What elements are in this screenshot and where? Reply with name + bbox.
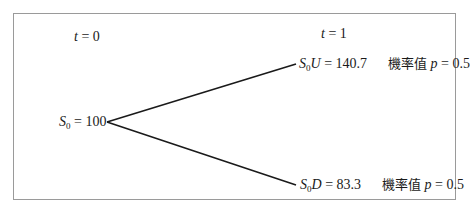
equals-sign: = bbox=[325, 26, 340, 41]
equals-sign: = bbox=[78, 29, 93, 44]
price-variable: S bbox=[59, 114, 66, 129]
equals-sign: = bbox=[71, 114, 86, 129]
probability-label: 機率值 bbox=[388, 56, 427, 71]
equals-sign: = bbox=[438, 56, 453, 71]
down-node-label: S0D = 83.3 機率值 p = 0.5 bbox=[300, 177, 464, 193]
down-probability-value: 0.5 bbox=[446, 177, 464, 192]
equals-sign: = bbox=[321, 56, 336, 71]
root-price-value: 100 bbox=[85, 114, 106, 129]
root-node-label: S0 = 100 bbox=[59, 114, 106, 130]
probability-variable: p bbox=[425, 177, 432, 192]
down-price-value: 83.3 bbox=[337, 177, 362, 192]
equals-sign: = bbox=[432, 177, 447, 192]
time-label-t0: t = 0 bbox=[74, 29, 100, 45]
probability-variable: p bbox=[431, 56, 438, 71]
equals-sign: = bbox=[322, 177, 337, 192]
down-factor: D bbox=[312, 177, 322, 192]
price-variable: S bbox=[299, 56, 306, 71]
time-value: 0 bbox=[93, 29, 100, 44]
up-probability-value: 0.5 bbox=[452, 56, 470, 71]
down-branch bbox=[107, 122, 296, 185]
up-node-label: S0U = 140.7 機率值 p = 0.5 bbox=[299, 56, 470, 72]
up-price-value: 140.7 bbox=[336, 56, 368, 71]
up-branch bbox=[107, 64, 296, 122]
time-value: 1 bbox=[340, 26, 347, 41]
price-variable: S bbox=[300, 177, 307, 192]
up-factor: U bbox=[311, 56, 321, 71]
time-label-t1: t = 1 bbox=[321, 26, 347, 42]
probability-label: 機率值 bbox=[382, 177, 421, 192]
